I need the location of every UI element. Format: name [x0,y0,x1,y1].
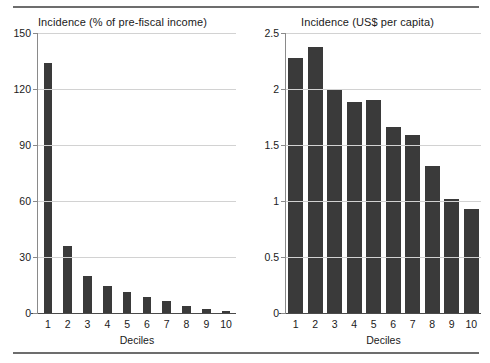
x-axis-title-right: Deciles [286,334,481,346]
gridline-right [286,201,481,202]
y-tick-label-right: 2.5 [264,28,279,39]
bar [162,301,171,313]
y-tick-label-left: 90 [19,140,31,151]
y-tick-label-right: 0.5 [264,252,279,263]
x-tick-label-right: 3 [332,319,338,330]
x-tick-label-left: 2 [65,319,71,330]
bar [222,311,231,313]
x-tick-label-left: 8 [184,319,190,330]
x-tick-label-right: 9 [449,319,455,330]
y-tick-mark-right [281,89,286,90]
bar [202,309,211,313]
figure-bottom-rule [13,352,479,354]
x-tick-label-right: 10 [465,319,477,330]
y-tick-label-left: 120 [13,84,31,95]
chart-panel-right: Incidence (US$ per capita) Deciles 00.51… [245,12,490,350]
x-axis-title-left: Deciles [38,334,236,346]
gridline-right [286,145,481,146]
y-tick-mark-right [281,201,286,202]
bar [103,286,112,313]
x-tick-label-right: 4 [351,319,357,330]
y-tick-mark-left [33,89,38,90]
gridline-right [286,89,481,90]
chart-title-right: Incidence (US$ per capita) [245,16,490,28]
bar [308,47,323,313]
chart-title-left: Incidence (% of pre-fiscal income) [0,16,245,28]
y-tick-mark-left [33,257,38,258]
x-axis-right [279,313,481,314]
bar [366,100,381,313]
bar [143,297,152,313]
x-tick-label-left: 5 [124,319,130,330]
x-tick-label-right: 2 [312,319,318,330]
y-tick-mark-right [281,313,286,314]
bar [347,102,362,313]
x-tick-label-right: 5 [371,319,377,330]
y-tick-mark-right [281,145,286,146]
bar-series-right [286,33,481,313]
gridline-right [286,257,481,258]
plot-area-left: Deciles 030609012015012345678910 [38,33,236,313]
gridline-left [38,201,236,202]
bar-series-left [38,33,236,313]
y-tick-label-right: 0 [273,308,279,319]
bar [44,63,53,313]
y-tick-label-left: 150 [13,28,31,39]
bar [83,276,92,313]
bar [288,58,303,313]
bar [464,209,479,313]
x-tick-label-left: 9 [203,319,209,330]
bar [123,292,132,313]
bar [386,127,401,313]
y-tick-label-left: 0 [25,308,31,319]
figure: Incidence (% of pre-fiscal income) Decil… [0,0,490,363]
gridline-left [38,257,236,258]
y-tick-label-right: 1 [273,196,279,207]
x-tick-label-left: 1 [45,319,51,330]
x-tick-label-left: 7 [164,319,170,330]
bar [405,135,420,313]
plot-area-right: Deciles 00.511.522.512345678910 [286,33,481,313]
x-tick-label-left: 6 [144,319,150,330]
gridline-left [38,33,236,34]
x-tick-label-left: 4 [104,319,110,330]
gridline-left [38,89,236,90]
y-tick-mark-left [33,33,38,34]
chart-panel-left: Incidence (% of pre-fiscal income) Decil… [0,12,245,350]
figure-top-rule [13,6,479,8]
y-tick-mark-right [281,33,286,34]
x-tick-label-right: 1 [293,319,299,330]
y-tick-label-right: 1.5 [264,140,279,151]
bar [63,246,72,313]
x-tick-label-left: 10 [220,319,232,330]
x-tick-label-right: 6 [390,319,396,330]
y-tick-mark-left [33,313,38,314]
y-tick-mark-right [281,257,286,258]
y-tick-label-left: 60 [19,196,31,207]
gridline-left [38,145,236,146]
gridline-right [286,33,481,34]
bar [182,306,191,313]
y-tick-mark-left [33,145,38,146]
x-tick-label-right: 7 [410,319,416,330]
x-axis-left [31,313,236,314]
x-tick-label-left: 3 [85,319,91,330]
y-tick-label-left: 30 [19,252,31,263]
x-tick-label-right: 8 [429,319,435,330]
y-tick-label-right: 2 [273,84,279,95]
bar [425,166,440,313]
y-tick-mark-left [33,201,38,202]
